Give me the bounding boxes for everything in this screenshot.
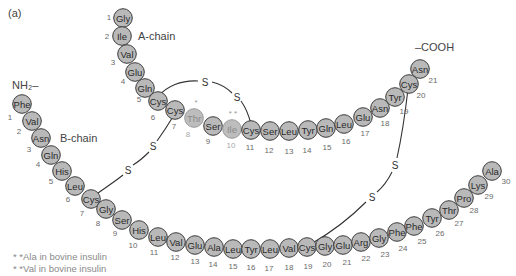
residue-name: Cys [167, 105, 184, 116]
a-chain-residue-11: Cys11 [242, 121, 261, 152]
a-chain-residue-7: Cys7 [166, 101, 185, 131]
residue-name: Leu [336, 119, 352, 130]
a-chain-residue-16: Leu16 [335, 115, 354, 146]
residue-name: Val [169, 237, 182, 248]
variant-marker-thr8: * [194, 98, 197, 107]
residue-number: 14 [303, 146, 312, 155]
b-chain-residue-9: Ser9 [113, 211, 132, 238]
residue-name: Asn [33, 133, 49, 144]
residue-name: Ser [206, 121, 221, 132]
b-chain-residue-10: His10 [129, 221, 149, 250]
residue-name: Thr [442, 205, 456, 216]
residue-name: Cys [401, 79, 418, 90]
residue-number: 7 [172, 122, 177, 131]
residue-name: Ile [117, 31, 127, 42]
sulfur-label: S [369, 192, 376, 203]
residue-number: 2 [105, 32, 110, 41]
residue-name: Tyr [244, 244, 257, 255]
b-chain-residue-12: Val12 [167, 233, 186, 262]
residue-name: Glu [188, 240, 203, 251]
residue-name: Phe [14, 99, 31, 110]
residue-name: Gly [318, 241, 333, 252]
residue-number: 11 [150, 248, 159, 257]
a-chain-residue-2: Ile2 [105, 27, 132, 46]
residue-name: Thr [187, 113, 201, 124]
residue-number: 29 [485, 192, 494, 201]
residue-number: 9 [206, 137, 211, 146]
residue-name: Ala [485, 166, 499, 177]
footnote-ala: * *Ala in bovine insulin [13, 251, 107, 262]
a-chain-label: A-chain [138, 30, 175, 42]
residue-number: 28 [470, 206, 479, 215]
b-chain-residue-17: Leu17 [261, 240, 280, 273]
residue-name: Tyr [388, 92, 401, 103]
residue-number: 6 [66, 195, 71, 204]
a-chain-residue-14: Tyr14 [299, 121, 318, 155]
disulfide-bonds [95, 81, 408, 244]
residue-name: Leu [281, 126, 297, 137]
residue-number: 4 [36, 160, 41, 169]
sulfur-label: S [125, 165, 132, 176]
residue-number: 18 [381, 119, 390, 128]
a-chain-residue-10: Ile10 [223, 120, 242, 150]
sulfur-label: S [234, 92, 241, 103]
residue-number: 15 [323, 143, 332, 152]
residue-number: 19 [400, 107, 409, 116]
residue-number: 10 [129, 241, 138, 250]
a-chain-residue-17: Glu17 [354, 108, 373, 138]
residue-name: Val [25, 116, 38, 127]
a-chain-residue-8: Thr8 [185, 109, 204, 139]
residue-name: His [55, 166, 69, 177]
b-chain-residue-15: Leu15 [224, 240, 243, 271]
residue-number: 21 [429, 76, 438, 85]
residue-number: 13 [191, 257, 200, 266]
residue-number: 10 [227, 141, 236, 150]
b-chain-residue-21: Glu21 [334, 236, 353, 267]
residue-number: 2 [17, 127, 22, 136]
residue-number: 25 [418, 237, 427, 246]
b-chain-residue-18: Val18 [280, 239, 299, 272]
a-chain-residue-15: Gln15 [317, 119, 336, 152]
residue-name: Phe [389, 227, 406, 238]
residue-name: Glu [356, 112, 371, 123]
sulfur-label: S [202, 77, 209, 88]
residue-number: 27 [455, 219, 464, 228]
residue-number: 26 [436, 229, 445, 238]
b-chain-residue-22: Arg22 [352, 233, 371, 263]
residue-number: 16 [247, 263, 256, 272]
b-chain-label: B-chain [60, 132, 97, 144]
residue-number: 24 [399, 244, 408, 253]
residue-number: 17 [361, 129, 370, 138]
residue-name: Gly [99, 204, 114, 215]
residue-number: 8 [186, 130, 191, 139]
residue-number: 3 [111, 58, 116, 67]
residue-name: Gln [138, 83, 153, 94]
residue-name: Ser [263, 126, 278, 137]
residue-number: 21 [343, 258, 352, 267]
residue-name: Asn [372, 103, 388, 114]
insulin-structure-diagram: SSSSSS Gly1Ile2Val3Glu4Gln5Cys6Cys7Thr8S… [0, 0, 516, 276]
residue-number: 8 [96, 219, 101, 228]
residue-number: 1 [8, 113, 13, 122]
residue-number: 17 [265, 264, 274, 273]
residue-number: 30 [502, 177, 511, 186]
disulfide-bond-a7-b7 [95, 115, 174, 195]
a-chain-residue-18: Asn18 [371, 99, 390, 128]
residue-name: Lys [471, 180, 486, 191]
residue-number: 16 [342, 137, 351, 146]
b-chain-residue-13: Glu13 [186, 236, 205, 266]
b-chain-residue-14: Ala14 [205, 238, 224, 269]
c-terminus-label: –COOH [415, 41, 454, 53]
residue-name: Cys [299, 242, 316, 253]
residue-number: 9 [113, 229, 118, 238]
residue-number: 19 [304, 262, 313, 271]
residue-name: Leu [67, 181, 83, 192]
residue-name: Tyr [301, 125, 314, 136]
residue-number: 20 [323, 260, 332, 269]
residue-number: 12 [265, 146, 274, 155]
a-chain-residue-13: Leu13 [280, 122, 299, 156]
residue-name: Ala [207, 242, 221, 253]
residue-name: Gln [44, 150, 59, 161]
residue-number: 1 [107, 13, 112, 22]
a-chain-residue-12: Ser12 [261, 122, 280, 155]
